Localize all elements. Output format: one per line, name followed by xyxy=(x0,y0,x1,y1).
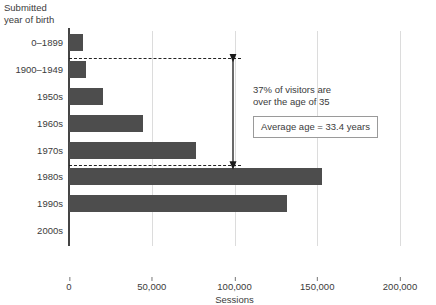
category-label: 1960s xyxy=(37,115,63,132)
x-tick-label: 200,000 xyxy=(383,281,417,292)
category-label: 1900–1949 xyxy=(15,61,63,78)
x-tick-label: 50,000 xyxy=(137,281,166,292)
bar-row: 2000s xyxy=(69,219,400,246)
x-tick-mark xyxy=(235,277,236,281)
category-label: 1990s xyxy=(37,195,63,212)
x-tick-mark xyxy=(69,277,70,281)
bar xyxy=(69,115,143,132)
annotation-percent-over-35: 37% of visitors are over the age of 35 xyxy=(253,84,331,108)
bar xyxy=(69,142,196,159)
category-label: 2000s xyxy=(37,222,63,239)
annotation-average-age-box: Average age = 33.4 years xyxy=(253,116,378,138)
x-tick-label: 150,000 xyxy=(300,281,334,292)
x-tick-label: 100,000 xyxy=(217,281,251,292)
bar xyxy=(69,195,287,212)
gridline xyxy=(400,31,401,246)
reference-line-top xyxy=(69,58,241,59)
x-tick-label: 0 xyxy=(66,281,71,292)
reference-line-bottom xyxy=(69,165,241,166)
bar xyxy=(69,168,322,185)
bar-row: 1990s xyxy=(69,192,400,219)
bar xyxy=(69,61,86,78)
x-tick-mark xyxy=(317,277,318,281)
x-tick-mark xyxy=(152,277,153,281)
y-axis-title: Submitted year of birth xyxy=(4,2,54,26)
category-label: 1950s xyxy=(37,88,63,105)
plot-area: 0–18991900–19491950s1960s1970s1980s1990s… xyxy=(69,31,400,246)
bar xyxy=(69,88,103,105)
category-label: 1980s xyxy=(37,168,63,185)
x-axis-title: Sessions xyxy=(215,294,254,305)
bar xyxy=(69,34,83,51)
age-range-arrow xyxy=(226,51,240,173)
x-tick-mark xyxy=(400,277,401,281)
category-label: 1970s xyxy=(37,142,63,159)
category-label: 0–1899 xyxy=(31,34,63,51)
